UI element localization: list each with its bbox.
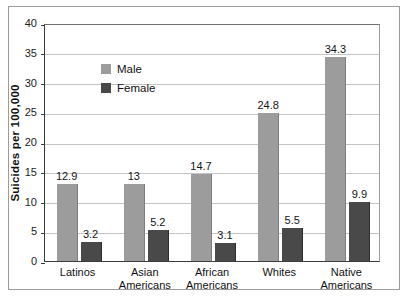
y-tick-label: 40 — [7, 18, 37, 29]
x-category-label-line: Native — [301, 266, 391, 279]
bar-value-label: 3.2 — [71, 229, 111, 240]
bar-value-label: 5.5 — [272, 215, 312, 226]
x-category-label: NativeAmericans — [301, 266, 391, 291]
legend-label: Male — [117, 63, 142, 75]
y-tick-mark — [41, 54, 45, 55]
y-tick-mark — [41, 263, 45, 264]
y-tick-mark — [41, 203, 45, 204]
bar-male — [325, 57, 346, 261]
chart-screenshot: Suicides per 100,000 4035302520151050 12… — [0, 0, 408, 296]
y-tick-label: 10 — [7, 197, 37, 208]
y-tick-label: 15 — [7, 167, 37, 178]
bar-value-label: 5.2 — [138, 217, 178, 228]
legend: MaleFemale — [101, 59, 191, 97]
bar-value-label: 3.1 — [205, 230, 245, 241]
plot-area: 12.93.2135.214.73.124.85.534.39.9 MaleFe… — [44, 24, 380, 262]
y-tick-mark — [41, 233, 45, 234]
bar-male — [258, 113, 279, 261]
legend-swatch-icon — [101, 64, 111, 74]
bar-female — [81, 242, 102, 261]
bar-male — [191, 174, 212, 261]
bar-value-label: 12.9 — [47, 171, 87, 182]
bar-value-label: 13 — [114, 171, 154, 182]
y-tick-mark — [41, 173, 45, 174]
bar-value-label: 24.8 — [248, 100, 288, 111]
y-tick-label: 20 — [7, 137, 37, 148]
y-tick-label: 25 — [7, 107, 37, 118]
x-category-label-line: Americans — [167, 279, 257, 292]
bar-value-label: 34.3 — [315, 44, 355, 55]
legend-item-female[interactable]: Female — [101, 78, 191, 97]
x-category-label-line: Americans — [301, 279, 391, 292]
bar-female — [349, 202, 370, 261]
bar-male — [57, 184, 78, 261]
legend-item-male[interactable]: Male — [101, 59, 191, 78]
legend-label: Female — [117, 82, 155, 94]
bar-female — [282, 228, 303, 261]
bar-value-label: 9.9 — [339, 189, 379, 200]
bar-female — [215, 243, 236, 261]
y-tick-mark — [41, 144, 45, 145]
bar-value-label: 14.7 — [181, 161, 221, 172]
y-tick-label: 30 — [7, 78, 37, 89]
bar-female — [148, 230, 169, 261]
y-tick-mark — [41, 84, 45, 85]
y-tick-label: 5 — [7, 226, 37, 237]
y-tick-label: 35 — [7, 48, 37, 59]
y-tick-mark — [41, 25, 45, 26]
y-tick-mark — [41, 114, 45, 115]
legend-swatch-icon — [101, 83, 111, 93]
